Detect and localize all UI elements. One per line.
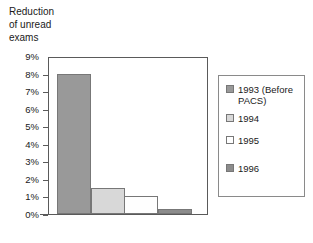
legend-item[interactable]: 1995	[226, 135, 259, 146]
legend-item-label: 1993 (Before PACS)	[238, 84, 293, 106]
y-axis-tick-mark	[43, 215, 48, 216]
y-axis-tick-label: 3%	[3, 157, 39, 167]
legend-item-label: 1996	[238, 163, 259, 174]
chart-legend: 1993 (Before PACS)199419951996	[218, 75, 305, 197]
y-axis: 9%8%7%6%5%4%3%2%1%0%	[0, 50, 48, 225]
legend-item[interactable]: 1993 (Before PACS)	[226, 84, 293, 106]
legend-swatch-icon	[226, 85, 234, 93]
y-axis-tick-label: 0%	[3, 210, 39, 220]
legend-item[interactable]: 1996	[226, 163, 259, 174]
y-axis-tick-label: 2%	[3, 175, 39, 185]
legend-swatch-icon	[226, 164, 234, 172]
y-axis-tick-label: 9%	[3, 52, 39, 62]
y-axis-tick-label: 6%	[3, 105, 39, 115]
y-axis-tick-label: 5%	[3, 122, 39, 132]
y-axis-tick-label: 4%	[3, 140, 39, 150]
legend-swatch-icon	[226, 114, 234, 122]
bar-1994	[91, 188, 125, 214]
page-title: Reduction of unread exams	[9, 5, 119, 44]
y-axis-tick-label: 7%	[3, 87, 39, 97]
x-axis-baseline	[40, 214, 48, 215]
legend-item-label: 1994	[238, 113, 259, 124]
bar-1995	[124, 196, 158, 214]
plot-area	[48, 57, 208, 215]
bar-1996	[158, 209, 192, 214]
y-axis-tick-label: 1%	[3, 192, 39, 202]
legend-item[interactable]: 1994	[226, 113, 259, 124]
legend-item-label: 1995	[238, 135, 259, 146]
bar-1993Before	[57, 74, 91, 214]
y-axis-tick-label: 8%	[3, 70, 39, 80]
legend-swatch-icon	[226, 136, 234, 144]
